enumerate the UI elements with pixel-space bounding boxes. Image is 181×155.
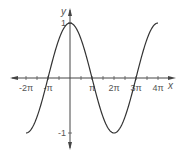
y-tick-label: -1 [58, 128, 66, 138]
x-tick-label: 4π [152, 83, 163, 93]
x-axis-left-arrow-icon [10, 76, 18, 80]
y-axis-down-arrow-icon [68, 142, 72, 150]
x-tick-label: -2π [19, 83, 33, 93]
x-tick-label: 2π [108, 83, 119, 93]
cosine-chart: -2π -π π 2π 3π 4π 1 -1 x y [0, 0, 181, 155]
x-axis-label: x [167, 80, 174, 91]
y-axis-up-arrow-icon [68, 8, 72, 16]
y-axis-label: y [60, 6, 67, 17]
